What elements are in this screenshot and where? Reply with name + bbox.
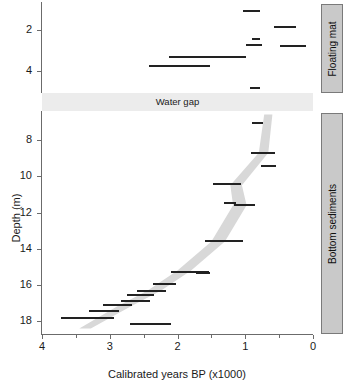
y-tick-lower-14	[37, 249, 41, 250]
y-ticklabel-upper-4: 4	[6, 65, 32, 76]
y-tick-lower-10	[37, 176, 41, 177]
panel-floating-mat	[42, 2, 313, 93]
bottom-sediments-age-bar	[137, 290, 166, 292]
x-ticklabel-2: 2	[167, 341, 189, 352]
x-tick-4	[42, 335, 43, 339]
x-minor-tick-1.5	[211, 335, 212, 338]
bottom-sediments-age-bar	[130, 323, 171, 325]
x-ticklabel-3: 3	[99, 341, 121, 352]
y-axis-spine-upper	[41, 2, 42, 93]
bottom-sediments-age-bar	[103, 304, 132, 306]
x-ticklabel-4: 4	[31, 341, 53, 352]
bottom-sediments-age-bar	[153, 283, 175, 285]
floating-mat-age-bar	[246, 44, 262, 46]
facies-label-bottom-sediments: Bottom sediments	[327, 183, 338, 263]
x-tick-0	[313, 335, 314, 339]
floating-mat-age-bar	[274, 26, 296, 28]
bottom-sediments-age-bar	[121, 300, 150, 302]
bottom-sediments-age-bar	[61, 317, 115, 319]
y-ticklabel-lower-14: 14	[6, 243, 32, 254]
facies-box-bottom-sediments: Bottom sediments	[321, 113, 343, 334]
panel-bottom-sediments	[42, 111, 313, 334]
y-axis-spine-lower	[41, 111, 42, 335]
bottom-sediments-age-bar	[261, 165, 276, 167]
floating-mat-age-bar	[243, 10, 261, 12]
floating-mat-age-bar	[250, 87, 260, 89]
floating-mat-age-bar	[149, 65, 210, 67]
y-tick-lower-12	[37, 213, 41, 214]
x-ticklabel-0: 0	[302, 341, 324, 352]
y-ticklabel-lower-12: 12	[6, 207, 32, 218]
bottom-sediments-age-bar	[205, 240, 244, 242]
bottom-sediments-age-bar	[213, 183, 242, 185]
x-minor-tick-0.5	[279, 335, 280, 338]
x-tick-2	[178, 335, 179, 339]
facies-label-floating-mat: Floating mat	[327, 21, 338, 76]
y-tick-lower-8	[37, 140, 41, 141]
bottom-sediments-age-bar	[127, 294, 153, 296]
x-minor-tick-2.5	[144, 335, 145, 338]
age-depth-envelope	[42, 111, 313, 334]
bottom-sediments-age-bar	[224, 202, 237, 204]
water-gap-label: Water gap	[42, 93, 313, 111]
facies-box-floating-mat: Floating mat	[321, 4, 343, 93]
x-tick-1	[245, 335, 246, 339]
y-ticklabel-lower-10: 10	[6, 170, 32, 181]
y-ticklabel-lower-8: 8	[6, 134, 32, 145]
x-minor-tick-3.5	[76, 335, 77, 338]
x-ticklabel-1: 1	[234, 341, 256, 352]
water-gap-band: Water gap	[42, 93, 313, 111]
x-tick-3	[110, 335, 111, 339]
bottom-sediments-age-bar	[234, 204, 256, 206]
y-tick-upper-2	[37, 30, 41, 31]
y-tick-upper-4	[37, 71, 41, 72]
x-axis-label: Calibrated years BP (x1000)	[42, 368, 312, 380]
bottom-sediments-age-bar	[89, 310, 118, 312]
floating-mat-age-bar	[280, 45, 305, 47]
y-ticklabel-lower-18: 18	[6, 315, 32, 326]
y-tick-lower-18	[37, 321, 41, 322]
y-tick-lower-16	[37, 285, 41, 286]
bottom-sediments-age-bar	[251, 152, 275, 154]
floating-mat-age-bar	[252, 38, 260, 40]
y-ticklabel-upper-2: 2	[6, 24, 32, 35]
y-ticklabel-lower-16: 16	[6, 279, 32, 290]
floating-mat-age-bar	[169, 56, 246, 58]
bottom-sediments-age-bar	[196, 272, 210, 274]
bottom-sediments-age-bar	[252, 122, 263, 124]
age-depth-figure: Rano Kao - Core 1 (Horrocks et al., 2013…	[0, 0, 358, 388]
